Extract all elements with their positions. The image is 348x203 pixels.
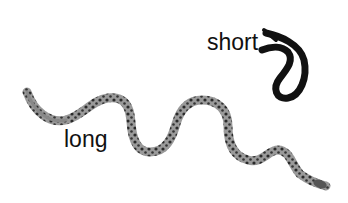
snake-illustration: short long <box>0 0 348 203</box>
snakes-drawing <box>0 0 348 203</box>
short-label: short <box>207 31 258 54</box>
short-snake <box>262 30 305 98</box>
long-label: long <box>64 128 107 151</box>
